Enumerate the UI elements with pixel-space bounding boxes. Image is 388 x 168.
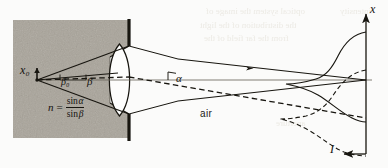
optics-refraction-figure: optical system the image of the distribu… <box>0 0 388 168</box>
formula-numerator: sin α <box>66 96 85 107</box>
label-angle-beta-zero: β₀ <box>61 77 69 87</box>
intensity-curve-solid <box>286 32 366 122</box>
angle-alpha-tick <box>168 72 176 80</box>
formula-denominator-fn: sin <box>67 109 78 119</box>
label-angle-alpha: α <box>176 73 182 84</box>
label-medium-air: air <box>200 109 212 119</box>
formula-numerator-arg: α <box>79 96 84 106</box>
label-axis-x: x <box>370 3 375 15</box>
formula-denominator: sin β <box>66 107 85 119</box>
formula-symbol-n: n <box>48 102 54 113</box>
formula-fraction: sin α sin β <box>66 96 85 119</box>
label-object-coordinate: x₀ <box>20 64 30 76</box>
formula-equals: = <box>57 102 63 113</box>
intensity-curve-dashed <box>280 70 366 156</box>
formula-numerator-fn: sin <box>67 96 78 106</box>
label-axis-intensity: I <box>330 143 334 155</box>
refractive-index-formula: n = sin α sin β <box>48 96 85 119</box>
formula-denominator-arg: β <box>79 109 84 119</box>
label-angle-beta: β <box>87 76 92 87</box>
